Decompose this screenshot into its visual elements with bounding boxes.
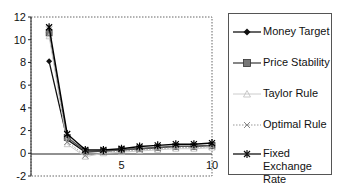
series-group: [46, 23, 215, 159]
x-tick-label: 5: [118, 159, 124, 171]
series-line: [49, 29, 212, 155]
legend-item-taylor-rule: Taylor Rule: [233, 87, 333, 100]
legend-item-fixed-exchange-rate: Fixed Exchange Rate: [233, 147, 333, 186]
series-line: [49, 61, 212, 152]
y-tick-label: 8: [20, 56, 26, 68]
legend-item-price-stability: Price Stability: [233, 56, 333, 69]
y-tick-label: 10: [14, 34, 26, 46]
series-line: [49, 27, 212, 150]
legend-label: Price Stability: [263, 56, 333, 69]
star-marker-icon: [233, 148, 261, 160]
legend: Money Target Price Stability Taylor Rule…: [228, 13, 332, 175]
series-line: [49, 33, 212, 151]
legend-label: Taylor Rule: [263, 87, 333, 100]
diamond-marker-icon: [233, 26, 261, 38]
square-marker-icon: [233, 57, 261, 69]
x-tick-label: 10: [206, 159, 218, 171]
y-tick-label: 2: [20, 125, 26, 137]
legend-label: Optimal Rule: [263, 118, 333, 131]
legend-label: Money Target: [263, 25, 333, 38]
y-tick-label: -2: [16, 170, 26, 182]
legend-label: Fixed Exchange Rate: [263, 147, 333, 186]
x-tick-labels: 510: [118, 159, 218, 171]
y-tick-label: 6: [20, 79, 26, 91]
y-tick-labels: -2024681012: [14, 11, 31, 182]
legend-item-money-target: Money Target: [233, 25, 333, 38]
triangle-marker-icon: [233, 88, 261, 100]
y-tick-label: 12: [14, 11, 26, 23]
y-tick-label: 4: [20, 102, 26, 114]
y-tick-label: 0: [20, 147, 26, 159]
x-marker-icon: [233, 119, 261, 131]
legend-item-optimal-rule: Optimal Rule: [233, 118, 333, 131]
data-point-marker: [46, 58, 52, 64]
